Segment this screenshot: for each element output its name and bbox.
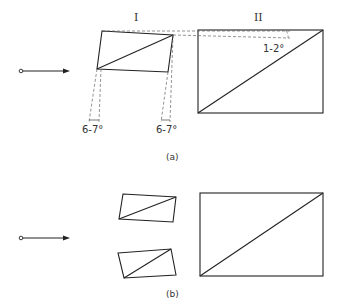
angle-label-top: 1-2° [263,43,284,54]
element-I-rect [97,31,173,72]
angle-label-right: 6-7° [156,124,177,135]
element-II-rect-b [200,193,323,276]
dashed-guides [89,31,290,122]
diagram-canvas: I II 6-7° 6-7° 1-2° (a) [0,0,344,302]
light-direction-arrow-a [19,69,70,74]
label-element-I: I [134,11,138,24]
label-element-II: II [254,11,263,24]
light-direction-arrow-b [19,236,70,241]
element-II-rect [198,30,323,113]
caption-a: (a) [166,152,179,162]
caption-b: (b) [166,289,179,299]
panel-b: (b) [19,193,323,299]
angle-label-left: 6-7° [82,124,103,135]
split-element-lower [118,249,176,278]
panel-a: I II 6-7° 6-7° 1-2° (a) [19,11,323,162]
split-element-upper [119,194,176,222]
